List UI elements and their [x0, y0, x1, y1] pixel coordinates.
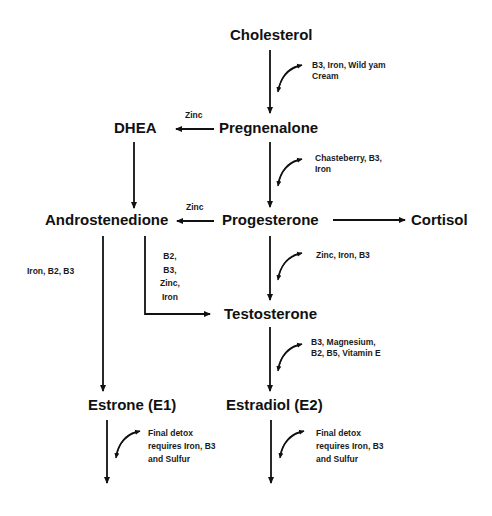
cofactor-pregnenalone-dhea: Zinc — [185, 110, 202, 121]
node-pregnenalone: Pregnenalone — [219, 120, 318, 136]
cofactor-estrone-detox: Final detox requires Iron, B3 and Sulfur — [148, 427, 216, 466]
cofactor-estradiol-detox: Final detox requires Iron, B3 and Sulfur — [316, 427, 384, 466]
cofactor-androstenedione-estrone: Iron, B2, B3 — [27, 266, 74, 277]
node-cortisol: Cortisol — [411, 212, 468, 228]
node-progesterone: Progesterone — [222, 212, 319, 228]
cofactor-cholesterol-pregnenalone: B3, Iron, Wild yam Cream — [312, 60, 386, 82]
cofactor-testosterone-estradiol: B3, Magnesium, B2, B5, Vitamin E — [311, 337, 381, 359]
node-androstenedione: Androstenedione — [45, 212, 168, 228]
node-testosterone: Testosterone — [224, 306, 317, 322]
node-cholesterol: Cholesterol — [230, 27, 313, 43]
cofactor-androstenedione-testosterone: B2, B3, Zinc, Iron — [160, 250, 180, 304]
node-dhea: DHEA — [114, 120, 157, 136]
pathway-arrows — [0, 0, 492, 516]
cofactor-progesterone-testosterone: Zinc, Iron, B3 — [316, 250, 370, 261]
cofactor-progesterone-androstenedione: Zinc — [186, 202, 203, 213]
cofactor-pregnenalone-progesterone: Chasteberry, B3, Iron — [315, 153, 382, 175]
node-estrone: Estrone (E1) — [88, 397, 176, 413]
node-estradiol: Estradiol (E2) — [226, 397, 323, 413]
